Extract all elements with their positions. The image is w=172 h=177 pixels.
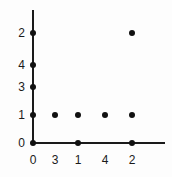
data-point [30,112,36,118]
y-axis-tick-label: 0 [18,137,25,149]
data-point [75,140,81,146]
scatter-plot: 24310 03142 [0,0,172,177]
y-axis-tick-label: 1 [18,109,25,121]
y-axis-tick-label: 4 [18,59,25,71]
data-point [52,112,58,118]
x-axis-tick-label: 4 [102,154,109,166]
data-point [129,112,135,118]
data-point [129,30,135,36]
x-axis-tick-label: 1 [75,154,82,166]
data-point [30,84,36,90]
y-axis-tick-label: 2 [18,27,25,39]
data-point [30,30,36,36]
data-point [30,140,36,146]
data-point [102,112,108,118]
data-point [30,62,36,68]
data-point [129,140,135,146]
x-axis-line [32,142,165,144]
data-point [75,112,81,118]
x-axis-tick-label: 2 [129,154,136,166]
x-axis-tick-label: 3 [52,154,59,166]
x-axis-tick-label: 0 [30,154,37,166]
y-axis-tick-label: 3 [18,81,25,93]
